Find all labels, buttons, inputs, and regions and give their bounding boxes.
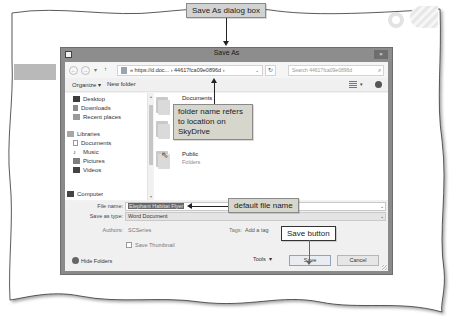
nav-item-label: Videos [83, 167, 101, 173]
breadcrumb-separator[interactable]: › [223, 67, 225, 73]
chevron-down-icon[interactable]: ▾ [269, 256, 272, 262]
recent-places-icon [73, 114, 80, 120]
hide-folders-icon[interactable] [72, 257, 79, 264]
search-placeholder: Search 44617fca09e0896d [292, 67, 352, 73]
chevron-down-icon[interactable]: ⌄ [380, 203, 384, 210]
save-as-type-select[interactable]: Word Document ⌄ [125, 212, 386, 221]
nav-item-libraries[interactable]: Libraries [67, 131, 100, 137]
nav-item-desktop[interactable]: Desktop [73, 96, 105, 102]
authors-value[interactable]: SCSeries [128, 227, 151, 233]
help-icon[interactable] [375, 81, 382, 88]
new-folder-button[interactable]: New folder [107, 81, 136, 87]
callout-save-as-dialog: Save As dialog box [186, 3, 266, 18]
view-options-icon[interactable] [349, 81, 357, 88]
tools-menu[interactable]: Tools [253, 256, 266, 262]
breadcrumb-prefix[interactable]: « [130, 67, 133, 73]
folder-icon-front [158, 100, 170, 115]
nav-item-documents[interactable]: Documents [73, 140, 111, 146]
nav-item-label: Documents [81, 140, 111, 146]
background-decoration [410, 6, 438, 28]
nav-item-label: Libraries [77, 131, 100, 137]
organize-menu[interactable]: Organize ▾ [72, 81, 101, 88]
folder-type: Folders [182, 159, 200, 165]
save-as-type-value: Word Document [128, 213, 168, 219]
videos-icon [73, 167, 80, 173]
folder-name[interactable]: Public [182, 151, 198, 157]
chevron-down-icon[interactable]: ⌄ [252, 66, 262, 75]
save-thumbnail-label[interactable]: Save Thumbnail [135, 242, 175, 248]
callout-arrow [226, 18, 227, 42]
save-as-type-label: Save as type: [65, 213, 123, 219]
folder-name[interactable]: Documents [182, 95, 212, 101]
authors-label: Authors: [65, 227, 123, 233]
background-decoration [14, 64, 56, 80]
tags-input[interactable]: Add a tag [245, 227, 269, 233]
file-name-value[interactable]: Elephant Habitat Flyer [128, 203, 184, 209]
dialog-title: Save As [61, 49, 392, 56]
address-bar[interactable]: « https://d.doc... › 44617fca09e0896d › … [117, 65, 263, 76]
callout-folder-name: folder name refers to location on SkyDri… [173, 104, 253, 140]
recent-locations-button[interactable]: ▾ [94, 66, 97, 73]
toolbar: Organize ▾ New folder ▾ [65, 78, 388, 92]
save-options-panel: File name: Elephant Habitat Flyer ⌄ Save… [65, 201, 388, 271]
refresh-button[interactable]: ↻ [265, 65, 276, 76]
navigation-pane: Desktop Downloads Recent places Librarie… [65, 93, 147, 200]
up-button[interactable]: ↑ [104, 66, 107, 72]
cancel-button[interactable]: Cancel [337, 255, 379, 266]
arrow-head-icon [306, 261, 312, 265]
arrow-head-icon [223, 41, 229, 46]
documents-icon [73, 140, 78, 146]
nav-item-recent-places[interactable]: Recent places [73, 114, 121, 120]
downloads-icon [73, 105, 78, 111]
nav-item-label: Music [83, 149, 99, 155]
nav-item-label: Pictures [83, 158, 105, 164]
nav-item-music[interactable]: ♪ Music [73, 149, 99, 155]
desktop-icon [73, 96, 80, 102]
music-icon: ♪ [73, 149, 80, 155]
computer-icon [67, 191, 74, 197]
chevron-down-icon[interactable]: ⌄ [380, 213, 384, 220]
dialog-body: ← → ▾ ↑ « https://d.doc... › 44617fca09e… [65, 62, 388, 271]
nav-item-label: Computer [77, 191, 103, 197]
folder-icon [156, 121, 170, 139]
folder-icon-front [158, 124, 170, 139]
arrow-head-icon [211, 78, 217, 83]
callout-save-button: Save button [281, 226, 336, 241]
mouse-cursor-icon: ⇖ [161, 150, 169, 160]
nav-pane-scrollbar[interactable]: ▴ ▾ [147, 93, 153, 200]
breadcrumb-separator[interactable]: › [171, 67, 173, 73]
nav-item-label: Downloads [81, 105, 111, 111]
breadcrumb-segment[interactable]: 44617fca09e0896d [174, 67, 221, 73]
tags-label: Tags: [229, 227, 242, 233]
scrollbar-thumb[interactable] [149, 105, 153, 165]
pictures-icon [73, 158, 80, 164]
breadcrumb-segment[interactable]: https://d.doc... [135, 67, 170, 73]
nav-item-downloads[interactable]: Downloads [73, 105, 111, 111]
save-as-dialog: Save As × ← → ▾ ↑ « https://d.doc... › 4… [60, 47, 393, 275]
hide-folders-button[interactable]: Hide Folders [81, 258, 112, 264]
callout-arrow [191, 206, 229, 207]
callout-default-file-name: default file name [228, 198, 299, 213]
folder-documents[interactable] [156, 97, 170, 115]
back-button[interactable]: ← [69, 66, 78, 75]
background-decoration [388, 12, 404, 28]
title-bar[interactable]: Save As × [61, 48, 392, 62]
callout-arrow [309, 240, 310, 262]
nav-item-computer[interactable]: Computer [67, 190, 103, 197]
callout-arrow [214, 82, 215, 104]
skydrive-location-icon [121, 67, 127, 74]
nav-item-pictures[interactable]: Pictures [73, 158, 105, 164]
libraries-icon [67, 131, 74, 137]
nav-item-label: Recent places [83, 114, 121, 120]
chevron-down-icon[interactable]: ▾ [360, 81, 363, 87]
search-icon[interactable]: ⌕ [378, 66, 381, 75]
address-row: ← → ▾ ↑ « https://d.doc... › 44617fca09e… [65, 62, 388, 78]
resize-grip[interactable] [382, 265, 387, 270]
nav-item-label: Desktop [83, 96, 105, 102]
search-input[interactable]: Search 44617fca09e0896d ⌕ [288, 65, 384, 76]
nav-item-videos[interactable]: Videos [73, 167, 101, 173]
close-button[interactable]: × [374, 50, 388, 59]
forward-button[interactable]: → [81, 66, 90, 75]
save-thumbnail-checkbox[interactable] [126, 242, 132, 248]
file-name-label: File name: [65, 203, 123, 209]
